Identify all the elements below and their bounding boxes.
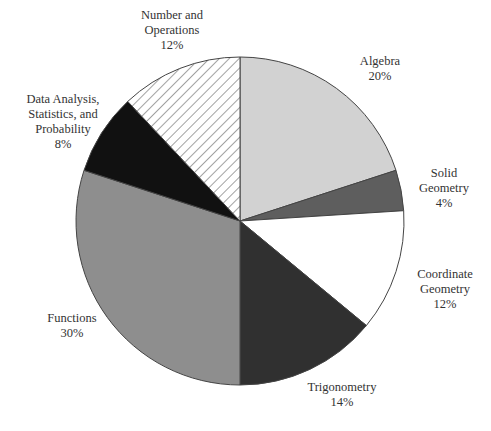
label-text: Data Analysis,	[8, 92, 118, 107]
label-coordinate-geometry: Coordinate Geometry 12%	[400, 267, 490, 312]
label-text: Trigonometry	[292, 380, 392, 395]
label-text: Coordinate	[400, 267, 490, 282]
label-percent: 4%	[404, 196, 484, 211]
label-text: Geometry	[404, 181, 484, 196]
label-text: Algebra	[340, 54, 420, 69]
label-trigonometry: Trigonometry 14%	[292, 380, 392, 410]
label-algebra: Algebra 20%	[340, 54, 420, 84]
label-solid-geometry: Solid Geometry 4%	[404, 166, 484, 211]
pie-slices	[76, 57, 404, 385]
label-percent: 30%	[30, 326, 114, 341]
label-percent: 12%	[400, 297, 490, 312]
label-percent: 12%	[112, 38, 232, 53]
label-functions: Functions 30%	[30, 311, 114, 341]
label-percent: 20%	[340, 69, 420, 84]
label-text: Geometry	[400, 282, 490, 297]
label-text: Solid	[404, 166, 484, 181]
label-text: Probability	[8, 122, 118, 137]
label-percent: 8%	[8, 137, 118, 152]
label-text: Operations	[112, 23, 232, 38]
label-text: Number and	[112, 8, 232, 23]
label-percent: 14%	[292, 395, 392, 410]
label-text: Statistics, and	[8, 107, 118, 122]
label-number-operations: Number and Operations 12%	[112, 8, 232, 53]
label-data-analysis: Data Analysis, Statistics, and Probabili…	[8, 92, 118, 152]
label-text: Functions	[30, 311, 114, 326]
